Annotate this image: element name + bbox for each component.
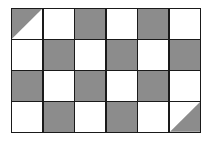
grid-cell-tri-upper-left xyxy=(12,9,42,39)
grid-cell-gray xyxy=(44,40,74,70)
grid-cell-white xyxy=(138,40,168,70)
grid-cell-white xyxy=(12,102,42,132)
grid-cell-gray xyxy=(44,102,74,132)
grid-cell-white xyxy=(107,71,137,101)
grid-cell-gray xyxy=(138,9,168,39)
grid-cell-white xyxy=(44,71,74,101)
grid-cell-gray xyxy=(107,102,137,132)
grid-cell-white xyxy=(138,102,168,132)
half-shaded-triangle xyxy=(170,102,200,132)
grid-cell-white xyxy=(75,102,105,132)
grid-cell-gray xyxy=(12,71,42,101)
grid-cell-gray xyxy=(75,71,105,101)
grid-cell-white xyxy=(107,9,137,39)
grid-cell-white xyxy=(44,9,74,39)
grid-cell-white xyxy=(12,40,42,70)
grid-cell-white xyxy=(170,71,200,101)
grid-cell-gray xyxy=(170,40,200,70)
grid-cell-gray xyxy=(107,40,137,70)
checkerboard-grid xyxy=(11,8,201,133)
grid-cell-gray xyxy=(138,71,168,101)
grid-cell-white xyxy=(170,9,200,39)
grid-cell-gray xyxy=(75,9,105,39)
half-shaded-triangle xyxy=(12,9,42,39)
grid-cell-tri-lower-right xyxy=(170,102,200,132)
grid-cell-white xyxy=(75,40,105,70)
